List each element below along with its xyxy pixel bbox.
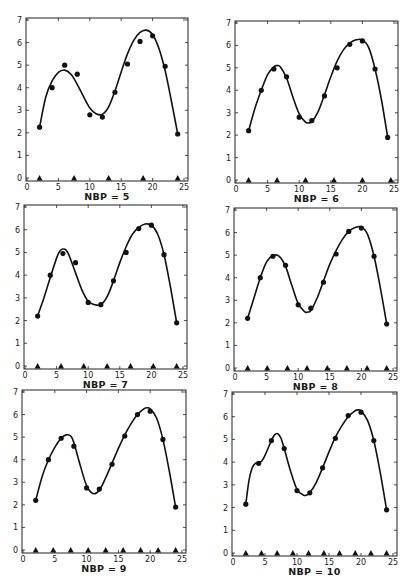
breakpoint-marker-icon [155,547,161,553]
data-point [333,436,338,441]
y-tick-label: 3 [15,294,20,303]
y-tick-label: 5 [17,61,22,70]
data-point [125,61,130,66]
data-point [358,410,363,415]
data-point [384,507,389,512]
plot-frame [232,392,397,556]
figure-canvas: 012345670510152025NBP = 5012345670510152… [0,0,412,585]
data-point [371,254,376,259]
data-point [73,260,78,265]
breakpoint-marker-icon [344,365,350,371]
data-point [283,263,288,268]
y-tick-label: 0 [13,546,18,555]
y-tick-label: 4 [223,458,228,467]
breakpoint-marker-icon [140,175,146,181]
data-point [346,413,351,418]
x-tick-label: 25 [388,558,398,567]
x-tick-label: 0 [232,373,237,382]
y-tick-label: 4 [17,84,22,93]
y-tick-label: 2 [226,131,231,140]
breakpoint-marker-icon [368,550,374,556]
breakpoint-marker-icon [290,550,296,556]
breakpoint-marker-icon [274,550,280,556]
panel-title: NBP = 5 [84,191,129,202]
plot-frame [22,390,186,553]
y-tick-label: 4 [225,274,230,283]
data-point [347,42,352,47]
plot-frame [24,205,187,369]
breakpoint-marker-icon [58,363,64,369]
plot-frame [234,208,397,371]
fit-curve [38,224,177,323]
breakpoint-marker-icon [303,177,309,183]
data-point [321,280,326,285]
breakpoint-marker-icon [384,365,390,371]
chart-panel: 012345670510152025NBP = 10 [223,390,398,577]
data-point [149,223,154,228]
x-tick-label: 20 [356,558,366,567]
breakpoint-marker-icon [246,177,252,183]
x-tick-label: 5 [262,558,267,567]
fit-curve [249,39,388,137]
data-point [86,300,91,305]
breakpoint-marker-icon [337,550,343,556]
x-tick-label: 25 [389,185,399,194]
data-point [160,437,165,442]
data-point [148,409,153,414]
breakpoint-marker-icon [120,547,126,553]
data-point [372,66,377,71]
x-tick-label: 25 [388,373,398,382]
y-tick-label: 6 [15,226,20,235]
x-tick-label: 20 [146,371,156,380]
data-point [334,251,339,256]
x-tick-label: 25 [177,555,187,564]
y-tick-label: 7 [15,203,20,212]
data-point [322,93,327,98]
y-tick-label: 0 [223,549,228,558]
x-tick-label: 0 [233,185,238,194]
data-point [371,438,376,443]
y-tick-label: 7 [225,206,230,215]
y-tick-label: 1 [223,526,228,535]
x-tick-label: 25 [178,371,188,380]
data-point [87,112,92,117]
x-tick-label: 0 [22,371,27,380]
data-point [258,275,263,280]
breakpoint-marker-icon [306,550,312,556]
data-point [137,39,142,44]
data-point [50,85,55,90]
chart-panel: 012345670510152025NBP = 5 [17,16,189,202]
data-point [271,66,276,71]
data-point [97,486,102,491]
data-point [294,488,299,493]
data-point [307,490,312,495]
data-point [309,118,314,123]
breakpoint-marker-icon [258,550,264,556]
x-tick-label: 5 [54,371,59,380]
y-tick-label: 2 [13,501,18,510]
breakpoint-marker-icon [304,365,310,371]
data-point [109,462,114,467]
data-point [111,278,116,283]
chart-panel: 012345670510152025NBP = 8 [225,206,398,392]
panel-title: NBP = 6 [294,193,340,204]
breakpoint-marker-icon [274,177,280,183]
data-point [384,321,389,326]
x-tick-label: 20 [356,373,366,382]
breakpoint-marker-icon [106,175,112,181]
data-point [48,273,53,278]
breakpoint-marker-icon [174,363,180,369]
y-tick-label: 1 [17,151,22,160]
y-tick-label: 0 [225,364,230,373]
y-tick-label: 6 [225,229,230,238]
data-point [282,446,287,451]
data-point [284,74,289,79]
breakpoint-marker-icon [364,365,370,371]
breakpoint-marker-icon [175,175,181,181]
fit-curve [246,410,387,510]
breakpoint-marker-icon [85,547,91,553]
y-tick-label: 5 [225,251,230,260]
panel-title: NBP = 10 [288,566,340,577]
data-point [346,229,351,234]
fit-curve [40,30,178,134]
